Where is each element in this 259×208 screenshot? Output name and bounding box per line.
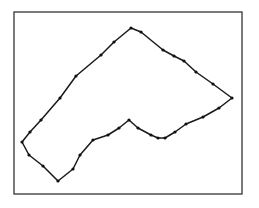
vertex-dot [112,40,115,43]
vertex-dot [74,74,77,77]
figure-frame [14,12,242,194]
vertex-dot [173,130,176,133]
vertex-dot [117,126,120,129]
vertex-dot [182,59,185,62]
vertex-dot [230,96,233,99]
vertex-dot [149,133,152,136]
vertex-dot [27,153,30,156]
vertex-dot [194,70,197,73]
vertex-dot [28,130,31,133]
vertex-dot [211,82,214,85]
vertex-dot [56,179,59,182]
vertex-dot [139,30,142,33]
vertex-dot [217,106,220,109]
polygon-figure [0,0,259,208]
vertex-dot [78,153,81,156]
vertex-dot [156,136,159,139]
vertex-dot [129,26,132,29]
vertex-dot [172,54,175,57]
vertex-dot [161,48,164,51]
polygon-outline [22,28,232,181]
polygon-vertices [20,26,233,182]
vertex-dot [106,133,109,136]
vertex-dot [163,136,166,139]
vertex-dot [20,140,23,143]
vertex-dot [99,53,102,56]
vertex-dot [91,138,94,141]
vertex-dot [201,115,204,118]
vertex-dot [39,118,42,121]
vertex-dot [184,122,187,125]
vertex-dot [136,126,139,129]
vertex-dot [41,164,44,167]
vertex-dot [58,96,61,99]
vertex-dot [127,118,130,121]
vertex-dot [71,167,74,170]
